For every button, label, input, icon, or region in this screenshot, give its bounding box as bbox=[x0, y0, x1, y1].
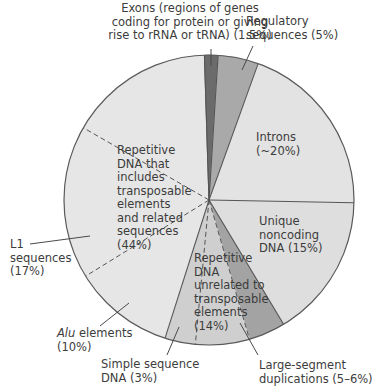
label-alu-italic: Alu bbox=[57, 326, 75, 340]
label-introns-line: Introns bbox=[256, 131, 300, 145]
label-transposable-line: transposable bbox=[117, 185, 192, 199]
label-simple-line: Simple sequence bbox=[101, 358, 199, 372]
label-transposable-line: elements bbox=[117, 198, 192, 212]
label-unrelated-line: DNA bbox=[194, 266, 269, 280]
label-transposable-line: includes bbox=[117, 171, 192, 185]
label-unrelated-line: unrelated to bbox=[194, 279, 269, 293]
label-alu-pct: (10%) bbox=[57, 341, 132, 355]
label-simple-line: DNA (3%) bbox=[101, 372, 199, 386]
label-unique-line: noncoding bbox=[259, 229, 323, 243]
label-introns-line: (~20%) bbox=[256, 145, 300, 159]
label-transposable-line: and related bbox=[117, 212, 192, 226]
label-unrelated-line: Repetitive bbox=[194, 252, 269, 266]
label-unrelated: Repetitive DNA unrelated to transposable… bbox=[194, 252, 269, 333]
label-regulatory-line: Regulatory bbox=[246, 15, 338, 29]
label-transposable-line: (44%) bbox=[117, 239, 192, 253]
label-l1-line: (17%) bbox=[10, 265, 71, 279]
label-transposable-line: DNA that bbox=[117, 158, 192, 172]
label-unique-line: Unique bbox=[259, 215, 323, 229]
label-l1: L1 sequences (17%) bbox=[10, 238, 71, 279]
label-unrelated-line: (14%) bbox=[194, 320, 269, 334]
label-unique-noncoding: Unique noncoding DNA (15%) bbox=[259, 215, 323, 256]
label-introns: Introns (~20%) bbox=[256, 131, 300, 158]
label-l1-line: sequences bbox=[10, 252, 71, 266]
label-unrelated-line: elements bbox=[194, 306, 269, 320]
label-unrelated-line: transposable bbox=[194, 293, 269, 307]
label-l1-line: L1 bbox=[10, 238, 71, 252]
label-simple-sequence: Simple sequence DNA (3%) bbox=[101, 358, 199, 385]
label-regulatory-line: sequences (5%) bbox=[246, 29, 338, 43]
label-transposable: Repetitive DNA that includes transposabl… bbox=[117, 144, 192, 252]
label-large-segment: Large-segment duplications (5–6%) bbox=[259, 359, 373, 386]
label-large-line: Large-segment bbox=[259, 359, 373, 373]
label-regulatory: Regulatory sequences (5%) bbox=[246, 15, 338, 42]
label-unique-line: DNA (15%) bbox=[259, 242, 323, 256]
label-transposable-line: sequences bbox=[117, 225, 192, 239]
label-alu-line: Alu elements bbox=[57, 327, 132, 341]
label-alu: Alu elements (10%) bbox=[57, 327, 132, 354]
label-transposable-line: Repetitive bbox=[117, 144, 192, 158]
label-large-line: duplications (5–6%) bbox=[259, 373, 373, 387]
label-alu-rest: elements bbox=[75, 326, 132, 340]
